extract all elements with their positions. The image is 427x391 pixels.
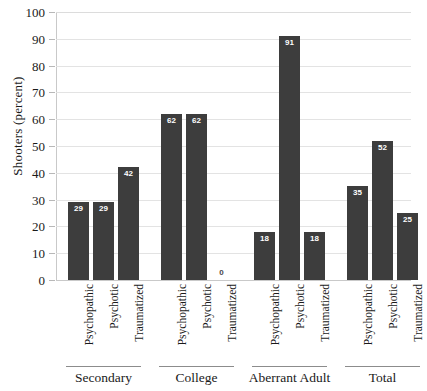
bar: 62 (161, 114, 182, 280)
x-axis-category-label: Psychopathic (177, 284, 189, 374)
bar-value-label: 42 (118, 170, 139, 178)
x-axis-category-label: Psychopathic (84, 284, 96, 374)
group-rule (345, 366, 420, 367)
gridline (56, 146, 411, 147)
group-rule (66, 366, 141, 367)
x-axis-baseline (56, 280, 411, 281)
y-axis-tick (49, 146, 55, 147)
group-label: Total (317, 371, 427, 385)
gridline (56, 119, 411, 120)
y-axis-tick (49, 66, 55, 67)
y-axis-tick (49, 12, 55, 13)
bar-value-label: 29 (68, 205, 89, 213)
y-axis-tick (49, 200, 55, 201)
bar: 18 (254, 232, 275, 280)
y-axis-title: Shooters (percent) (10, 46, 26, 206)
bar-value-label: 62 (161, 117, 182, 125)
x-axis-category-label: Traumatized (227, 284, 239, 374)
y-axis-tick (49, 119, 55, 120)
bar: 62 (186, 114, 207, 280)
bar: 52 (372, 141, 393, 280)
y-axis-tick (49, 280, 55, 281)
bar-value-label: 52 (372, 144, 393, 152)
y-axis-tick-label: 30 (32, 193, 45, 206)
x-axis-category-label: Psychotic (202, 284, 214, 374)
y-axis-tick (49, 253, 55, 254)
y-axis-tick (49, 226, 55, 227)
y-axis-tick (49, 39, 55, 40)
x-axis-category-label: Psychotic (109, 284, 121, 374)
y-axis-tick (49, 173, 55, 174)
gridline (56, 12, 411, 13)
y-axis-tick-label: 80 (32, 59, 45, 72)
y-axis-tick-label: 10 (32, 247, 45, 260)
bar: 29 (68, 202, 89, 280)
bar-value-label: 62 (186, 117, 207, 125)
bar-value-label: 18 (254, 235, 275, 243)
bar: 29 (93, 202, 114, 280)
y-axis-tick (49, 92, 55, 93)
bar: 42 (118, 167, 139, 280)
gridline (56, 66, 411, 67)
bar-value-label: 25 (397, 216, 418, 224)
plot-area: 0102030405060708090100292942626201891183… (56, 12, 411, 280)
x-axis-category-label: Psychopathic (270, 284, 282, 374)
x-axis-category-label: Traumatized (413, 284, 425, 374)
gridline (56, 92, 411, 93)
y-axis-tick-label: 70 (32, 86, 45, 99)
bar-value-label: 29 (93, 205, 114, 213)
y-axis-tick-label: 40 (32, 166, 45, 179)
bar-value-label: 91 (279, 39, 300, 47)
y-axis-tick-label: 60 (32, 113, 45, 126)
y-axis-tick-label: 90 (32, 32, 45, 45)
x-axis-category-label: Traumatized (320, 284, 332, 374)
x-axis-category-label: Traumatized (134, 284, 146, 374)
x-axis-category-label: Psychopathic (363, 284, 375, 374)
bar: 25 (397, 213, 418, 280)
gridline (56, 39, 411, 40)
x-axis-category-label: Psychotic (295, 284, 307, 374)
gridline (56, 173, 411, 174)
y-axis-tick-label: 50 (32, 140, 45, 153)
bar: 18 (304, 232, 325, 280)
y-axis-tick-label: 0 (39, 274, 46, 287)
group-rule (252, 366, 327, 367)
x-axis-category-label: Psychotic (388, 284, 400, 374)
y-axis-tick-label: 100 (26, 6, 46, 19)
bar-value-label: 35 (347, 189, 368, 197)
bar-value-label: 18 (304, 235, 325, 243)
group-rule (159, 366, 234, 367)
bar-value-label: 0 (211, 269, 232, 277)
bar: 91 (279, 36, 300, 280)
y-axis-tick-label: 20 (32, 220, 45, 233)
bar: 35 (347, 186, 368, 280)
